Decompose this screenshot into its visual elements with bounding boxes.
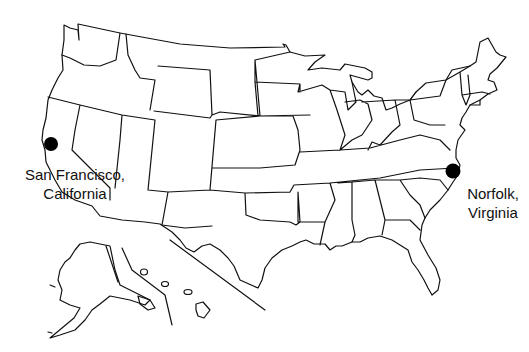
hawaii-island-maui	[184, 290, 192, 295]
label-san-francisco-line2: California	[20, 184, 130, 203]
label-norfolk: Norfolk, Virginia	[460, 184, 526, 222]
hawaii-island-big	[196, 302, 210, 318]
hawaii-island-kauai	[141, 269, 148, 275]
marker-norfolk[interactable]	[446, 164, 461, 179]
marker-san-francisco[interactable]	[44, 137, 58, 151]
label-san-francisco-line1: San Francisco,	[20, 165, 130, 184]
alaska-inset	[48, 242, 150, 338]
alaska-hawaii-divider	[106, 240, 265, 325]
label-norfolk-line2: Virginia	[460, 203, 526, 222]
state-borders	[48, 33, 490, 245]
hawaii-island-oahu	[162, 282, 169, 287]
label-san-francisco: San Francisco, California	[20, 165, 130, 203]
label-norfolk-line1: Norfolk,	[460, 184, 526, 203]
